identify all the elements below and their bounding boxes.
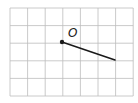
origin-label: O [68, 27, 77, 39]
grid-canvas [0, 0, 138, 103]
ray-segment [62, 42, 115, 60]
origin-point [60, 40, 64, 44]
grid [10, 8, 133, 96]
